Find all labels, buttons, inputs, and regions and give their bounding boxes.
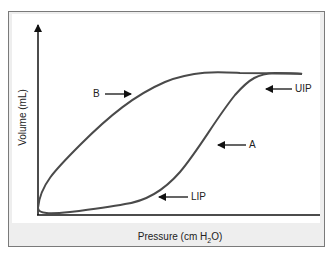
label-lip: LIP: [191, 191, 206, 202]
deflation-limb: [38, 72, 302, 208]
label-uip: UIP: [295, 83, 312, 94]
x-axis-label: Pressure (cm H2O): [90, 231, 270, 244]
y-axis-label: Volume (mL): [17, 78, 28, 158]
pv-loop-plot: [0, 0, 332, 255]
label-b: B: [93, 88, 100, 99]
inflation-limb: [38, 73, 302, 213]
label-a: A: [249, 139, 256, 150]
